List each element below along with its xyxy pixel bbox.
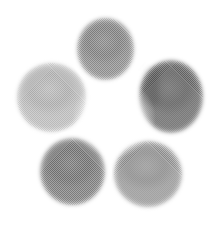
disc-bottom-right-fill — [114, 141, 182, 207]
disc-right-fill — [139, 60, 203, 133]
disc-right-label: right disc — [139, 60, 140, 61]
disc-left: left disc — [17, 63, 86, 132]
disc-right: right disc — [139, 60, 203, 133]
disc-left-label: left disc — [17, 63, 18, 64]
disc-left-fill — [17, 63, 86, 132]
disc-bottom-right-label: bottom right disc — [114, 141, 115, 142]
disc-top-fill — [77, 18, 134, 80]
image-canvas: left disc top disc right disc bottom lef… — [0, 0, 221, 228]
disc-bottom-right: bottom right disc — [114, 141, 182, 207]
disc-bottom-left-label: bottom left disc — [40, 138, 41, 139]
disc-bottom-left-fill — [40, 138, 105, 205]
disc-top-label: top disc — [77, 18, 78, 19]
image-caption: Five flat grey discs of differing bright… — [0, 0, 1, 1]
disc-bottom-left: bottom left disc — [40, 138, 105, 205]
disc-top: top disc — [77, 18, 134, 80]
